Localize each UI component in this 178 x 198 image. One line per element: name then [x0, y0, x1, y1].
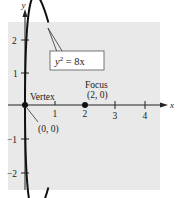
- y-tick-1: 1: [13, 69, 18, 79]
- vertex-point: [22, 102, 28, 108]
- equation-label: y2 = 8x: [54, 55, 86, 67]
- x-axis-label: x: [169, 100, 174, 110]
- focus-point: [82, 102, 88, 108]
- x-tick-2: 2: [83, 109, 88, 119]
- y-tick-neg1: −1: [7, 135, 17, 145]
- y-axis-label: y: [21, 0, 26, 10]
- x-axis-arrow-icon: [160, 103, 168, 108]
- x-tick-3: 3: [113, 111, 118, 121]
- vertex-label: Vertex: [30, 92, 55, 102]
- y-axis-arrow-icon: [23, 9, 28, 17]
- vertex-coords: (0, 0): [38, 124, 59, 135]
- y-tick-2: 2: [12, 36, 17, 46]
- focus-label: Focus: [85, 80, 108, 90]
- y-tick-neg2: −2: [7, 169, 17, 179]
- x-tick-1: 1: [53, 109, 58, 119]
- focus-coords: (2, 0): [87, 90, 108, 101]
- parabola-graph: y x 1 2 3 4 2 1 −1 −2 y2 = 8x Vertex (0,…: [0, 0, 178, 198]
- x-tick-4: 4: [143, 111, 148, 121]
